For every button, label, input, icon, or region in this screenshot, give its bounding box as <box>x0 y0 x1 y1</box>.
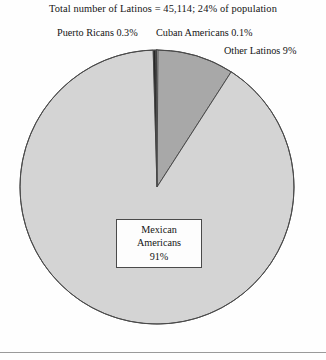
chart-title: Total number of Latinos = 45,114; 24% of… <box>0 3 326 14</box>
center-caption-line-2: Americans <box>119 236 199 249</box>
pie-chart-graphic <box>19 49 295 325</box>
center-caption-line-1: Mexican <box>119 223 199 236</box>
center-caption-line-3: 91% <box>119 250 199 263</box>
center-caption-box: Mexican Americans 91% <box>116 219 202 268</box>
callout-label-cuban-americans: Cuban Americans 0.1% <box>156 27 252 38</box>
pie-svg <box>19 49 295 325</box>
footer-divider <box>0 352 326 353</box>
pie-chart-figure: Total number of Latinos = 45,114; 24% of… <box>0 0 326 360</box>
callout-label-puerto-ricans: Puerto Ricans 0.3% <box>57 27 138 38</box>
